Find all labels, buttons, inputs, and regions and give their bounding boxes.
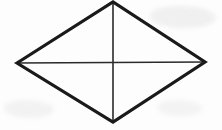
rhombus-diagram	[0, 0, 222, 130]
figure-container: Rhombus with both diagonals drawn Black …	[0, 0, 222, 130]
horizontal-diagonal-line	[17, 62, 205, 63]
